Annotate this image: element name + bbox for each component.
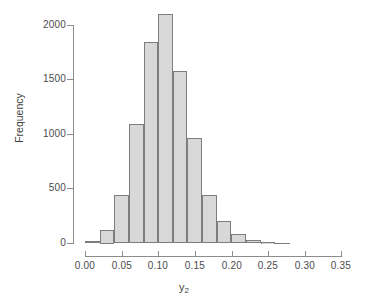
histogram-bar — [114, 195, 129, 243]
histogram-bar — [231, 234, 246, 243]
histogram-bar — [261, 242, 276, 243]
histogram-bar — [144, 42, 159, 243]
histogram-bar — [246, 240, 261, 243]
histogram-bars — [0, 0, 368, 301]
histogram-bar — [275, 243, 290, 244]
histogram-bar — [129, 124, 144, 244]
histogram-bar — [158, 14, 173, 243]
histogram-chart: Frequency 0 500 1000 1500 2000 0.00 0.05… — [0, 0, 368, 301]
histogram-bar — [173, 71, 188, 243]
histogram-bar — [100, 230, 115, 244]
histogram-bar — [202, 195, 217, 244]
histogram-bar — [187, 138, 202, 244]
histogram-bar — [85, 241, 100, 244]
histogram-bar — [217, 221, 232, 243]
